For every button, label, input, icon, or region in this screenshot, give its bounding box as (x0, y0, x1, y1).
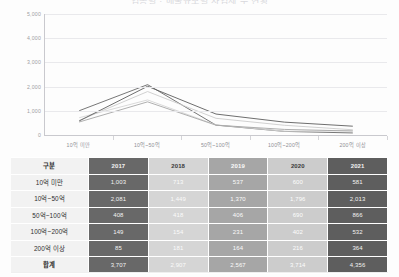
data-table: 구분 20172018201920202021 10억 미만1,00371353… (11, 157, 388, 274)
table-cell: 1,796 (268, 191, 328, 208)
y-gridline (45, 87, 387, 88)
table-cell: 154 (148, 224, 208, 241)
figure-title: 업종별 · 매출규모별 사업체 수 현황 (0, 0, 399, 4)
table-cell: 231 (208, 224, 268, 241)
table-cell: 600 (268, 174, 328, 191)
table-column-header-2017: 2017 (89, 158, 149, 175)
x-axis-tick (181, 136, 182, 140)
table-row-label: 50억~100억 (11, 207, 89, 224)
table-cell: 402 (268, 224, 328, 241)
y-axis-tick-label: 4,000 (27, 35, 41, 41)
y-axis-tick-label: 2,000 (27, 84, 41, 90)
data-table-wrap: 구분 20172018201920202021 10억 미만1,00371353… (11, 157, 388, 274)
table-cell: 418 (148, 207, 208, 224)
y-gridline (45, 62, 387, 63)
table-cell: 164 (208, 240, 268, 257)
x-axis-tick (387, 136, 388, 140)
x-axis-labels: 10억 미만10억~50억50억~100억100억~200억200억 이상 (44, 136, 387, 150)
table-cell: 532 (328, 224, 388, 241)
table-bottom-rule (11, 272, 388, 273)
y-axis-tick-label: 3,000 (27, 59, 41, 65)
table-cell: 406 (208, 207, 268, 224)
table-cell: 408 (89, 207, 149, 224)
table-cell: 149 (89, 224, 149, 241)
chart-series-lines (45, 14, 387, 135)
table-cell: 3,707 (89, 257, 149, 274)
table-row-label: 10억~50억 (11, 191, 89, 208)
y-axis-tick-label: 1,000 (27, 108, 41, 114)
table-cell: 85 (89, 240, 149, 257)
table-cell: 1,003 (89, 174, 149, 191)
table-cell: 181 (148, 240, 208, 257)
y-axis-tick-label: 5,000 (27, 11, 41, 17)
series-line-2018 (79, 100, 353, 131)
chart-plot-area: 01,0002,0003,0004,0005,000 (44, 14, 387, 136)
table-cell: 866 (328, 207, 388, 224)
table-row-label: 200억 이상 (11, 240, 89, 257)
table-cell: 1,370 (208, 191, 268, 208)
table-cell: 2,013 (328, 191, 388, 208)
table-corner-label: 구분 (11, 158, 89, 175)
table-row: 10억 미만1,003713537600581 (11, 174, 388, 191)
table-column-header-2019: 2019 (208, 158, 268, 175)
y-gridline (45, 111, 387, 112)
table-cell: 2,907 (148, 257, 208, 274)
table-cell: 537 (208, 174, 268, 191)
x-axis-tick-label: 100억~200억 (268, 141, 300, 148)
table-cell: 713 (148, 174, 208, 191)
table-cell: 2,567 (208, 257, 268, 274)
figure-root: 업종별 · 매출규모별 사업체 수 현황 01,0002,0003,0004,0… (0, 0, 399, 277)
line-chart: 01,0002,0003,0004,0005,000 10억 미만10억~50억… (0, 8, 399, 150)
table-cell: 364 (328, 240, 388, 257)
table-cell: 216 (268, 240, 328, 257)
table-row-label: 100억~200억 (11, 224, 89, 241)
table-column-header-2020: 2020 (268, 158, 328, 175)
series-line-2017 (79, 85, 353, 133)
table-header-row: 구분 20172018201920202021 (11, 158, 388, 175)
table-row: 50억~100억408418406690866 (11, 207, 388, 224)
table-cell: 581 (328, 174, 388, 191)
table-cell: 3,714 (268, 257, 328, 274)
x-axis-tick (250, 136, 251, 140)
table-row: 10억~50억2,0811,4491,3701,7962,013 (11, 191, 388, 208)
x-axis-tick-label: 10억 미만 (67, 141, 90, 148)
x-axis-tick-label: 10억~50억 (134, 141, 160, 148)
x-axis-tick-label: 50억~100억 (201, 141, 230, 148)
table-column-header-2021: 2021 (328, 158, 388, 175)
table-column-header-2018: 2018 (148, 158, 208, 175)
table-row-label: 10억 미만 (11, 174, 89, 191)
x-axis-tick (318, 136, 319, 140)
table-row: 200억 이상85181164216364 (11, 240, 388, 257)
x-axis-tick (113, 136, 114, 140)
y-gridline (45, 14, 387, 15)
table-cell: 4,356 (328, 257, 388, 274)
table-row-label: 합계 (11, 257, 89, 274)
table-cell: 2,081 (89, 191, 149, 208)
table-cell: 690 (268, 207, 328, 224)
x-axis-tick-label: 200억 이상 (339, 141, 366, 148)
y-axis-tick-label: 0 (38, 132, 41, 138)
table-row: 100억~200억149154231402532 (11, 224, 388, 241)
y-gridline (45, 38, 387, 39)
series-line-2021 (79, 86, 353, 126)
table-row: 합계3,7072,9072,5673,7144,356 (11, 257, 388, 274)
table-cell: 1,449 (148, 191, 208, 208)
